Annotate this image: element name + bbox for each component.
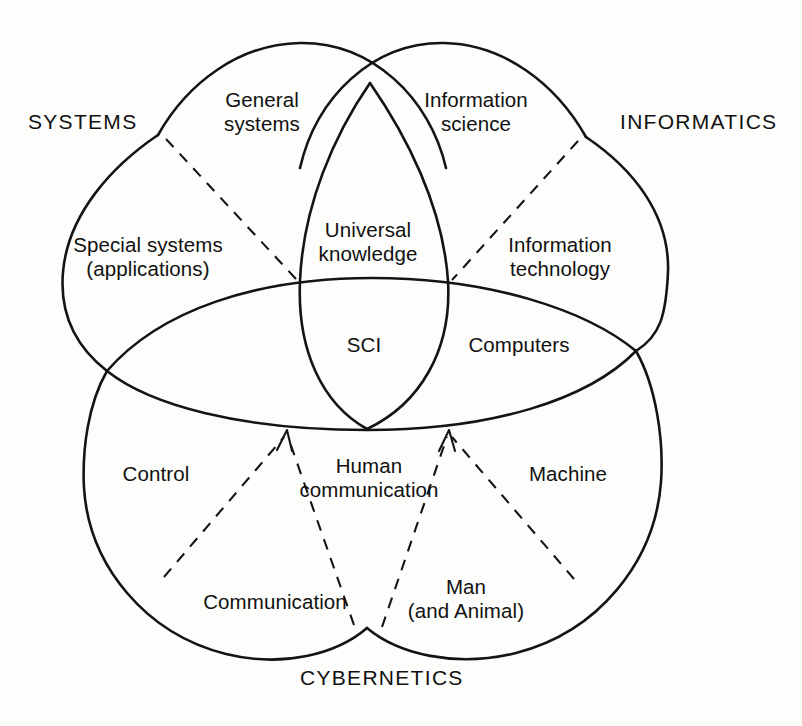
horizontal-lens-bottom xyxy=(107,351,636,430)
region-label-universal-knowledge: Universal knowledge xyxy=(288,218,448,266)
region-label-information-science: Information science xyxy=(386,88,566,136)
region-label-communication: Communication xyxy=(185,590,365,614)
region-label-general-systems: General systems xyxy=(172,88,352,136)
region-label-human-communication: Human communication xyxy=(279,454,459,502)
region-label-information-technology: Information technology xyxy=(470,233,650,281)
venn-diagram: SYSTEMS INFORMATICS CYBERNETICS General … xyxy=(0,0,802,726)
man-arrow-head xyxy=(439,430,455,451)
control-arrow-head xyxy=(277,430,292,451)
domain-label-systems: SYSTEMS xyxy=(28,110,178,135)
cybernetics-left-circle xyxy=(84,371,367,660)
domain-label-informatics: INFORMATICS xyxy=(620,110,800,135)
domain-label-cybernetics: CYBERNETICS xyxy=(300,666,480,691)
region-label-sci: SCI xyxy=(324,333,404,357)
region-label-computers: Computers xyxy=(449,333,589,357)
region-label-man-and-animal: Man (and Animal) xyxy=(391,575,541,623)
machine-arrow-line xyxy=(452,437,574,579)
region-label-machine: Machine xyxy=(503,462,633,486)
control-arrow-line xyxy=(164,437,284,577)
region-label-special-systems: Special systems (applications) xyxy=(33,233,263,281)
region-label-control: Control xyxy=(96,462,216,486)
